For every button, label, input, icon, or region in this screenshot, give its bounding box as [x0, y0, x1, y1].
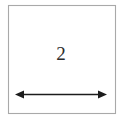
figure-canvas: 2	[0, 0, 125, 123]
square-dimension-diagram: 2	[0, 0, 125, 123]
arrowhead-right-icon	[98, 91, 107, 99]
arrowhead-left-icon	[15, 91, 24, 99]
dimension-label-2: 2	[56, 43, 66, 64]
